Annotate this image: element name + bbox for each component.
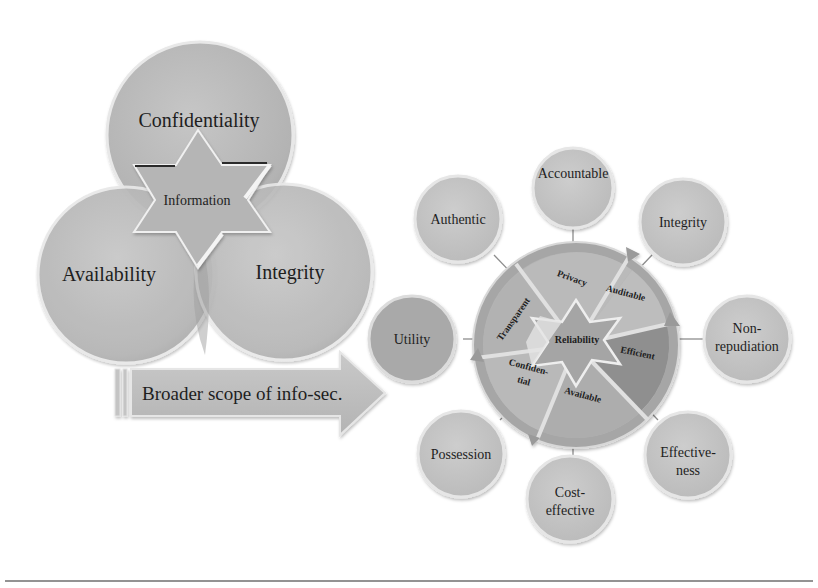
svg-text:Authentic: Authentic <box>430 212 485 227</box>
information-label: Information <box>164 193 231 208</box>
satellite-integrity: Integrity <box>640 179 726 265</box>
satellite-non-repudiation: Non- repudiation <box>704 296 790 382</box>
satellite-cost-effective: Cost- effective <box>527 456 613 542</box>
svg-text:ness: ness <box>676 463 700 478</box>
venn-diagram: Confidentiality Availability Integrity I… <box>38 42 372 363</box>
svg-text:repudiation: repudiation <box>715 339 779 354</box>
svg-text:Integrity: Integrity <box>659 215 707 230</box>
reliability-label: Reliability <box>555 334 599 345</box>
satellite-authentic: Authentic <box>415 176 501 262</box>
svg-text:Cost-: Cost- <box>555 485 586 500</box>
integrity-label: Integrity <box>256 261 325 284</box>
infosec-diagram: Confidentiality Availability Integrity I… <box>0 0 818 588</box>
svg-text:Effective-: Effective- <box>660 445 716 460</box>
satellite-effectiveness: Effective- ness <box>645 412 731 498</box>
svg-text:Possession: Possession <box>431 447 492 462</box>
broader-scope-label: Broader scope of info-sec. <box>142 383 342 404</box>
satellite-possession: Possession <box>418 411 504 497</box>
svg-text:effective: effective <box>546 503 595 518</box>
svg-text:Non-: Non- <box>733 321 762 336</box>
svg-text:Accountable: Accountable <box>538 166 609 181</box>
svg-text:Utility: Utility <box>394 332 431 347</box>
satellite-utility: Utility <box>369 296 455 382</box>
availability-label: Availability <box>62 263 156 286</box>
confidentiality-label: Confidentiality <box>138 109 259 132</box>
satellite-accountable: Accountable <box>533 148 613 228</box>
